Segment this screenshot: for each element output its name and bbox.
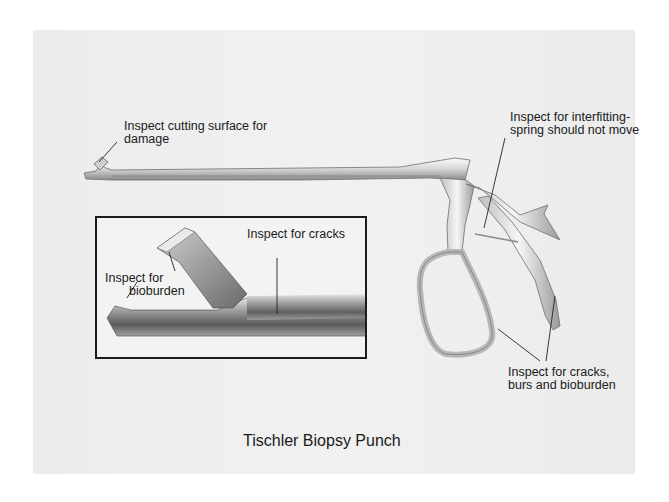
callout-cutting-surface: Inspect cutting surface fordamage [124,120,267,146]
callout-text: burs and bioburden [508,378,616,392]
callout-text: Inspect for cracks, [508,365,609,379]
callout-text: spring should not move [510,123,639,137]
inset-detail-tip: Inspect for cracks Inspect forbioburden [95,216,367,359]
callout-text: damage [124,132,169,146]
inset-callout-cracks: Inspect for cracks [247,228,345,241]
callout-line-loop [498,329,540,361]
callout-interfitting-spring: Inspect for interfitting-spring should n… [510,111,639,137]
callout-text: bioburden [105,284,185,298]
inset-callout-bioburden: Inspect forbioburden [105,272,185,298]
finger-loop [420,252,493,355]
callout-cracks-burs: Inspect for cracks,burs and bioburden [508,366,616,392]
callout-text: Inspect for interfitting- [510,110,630,124]
instrument-shaft [84,158,470,180]
callout-text: Inspect cutting surface for [124,119,267,133]
callout-line-cutting [99,142,117,162]
callout-text: Inspect for [105,271,163,285]
figure-caption: Tischler Biopsy Punch [243,432,401,450]
